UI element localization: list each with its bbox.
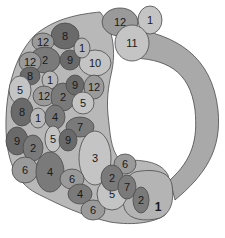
region-label: 10 — [89, 57, 101, 69]
region-label: 5 — [80, 97, 86, 109]
region-label: 5 — [17, 84, 23, 96]
region-label: 2 — [60, 91, 66, 103]
region-label: 6 — [122, 158, 128, 170]
region-label: 7 — [124, 181, 130, 193]
region-label: 6 — [22, 164, 28, 176]
big-region-label: 1 — [155, 200, 162, 214]
region-label: 8 — [62, 30, 68, 42]
region-label: 2 — [30, 142, 36, 154]
region-4: 4 — [45, 105, 65, 129]
region-6: 6 — [12, 157, 38, 183]
region-label: 8 — [19, 106, 25, 118]
region-5: 5 — [72, 92, 94, 114]
region-label: 4 — [52, 111, 58, 123]
region-label: 4 — [47, 166, 53, 178]
region-label: 11 — [126, 37, 137, 49]
region-label: 1 — [47, 74, 53, 86]
region-label: 12 — [38, 90, 50, 102]
region-label: 2 — [109, 172, 115, 184]
region-label: 9 — [72, 79, 78, 91]
region-1: 1 — [74, 38, 90, 58]
region-label: 5 — [50, 133, 56, 145]
region-label: 6 — [69, 173, 75, 185]
region-5: 5 — [45, 126, 61, 152]
region-label: 3 — [92, 152, 98, 164]
region-label: 1 — [147, 14, 153, 26]
region-label: 2 — [42, 54, 48, 66]
region-label: 9 — [65, 134, 71, 146]
region-1: 1 — [30, 108, 46, 128]
region-label: 7 — [77, 121, 83, 133]
region-label: 2 — [138, 194, 144, 206]
region-label: 9 — [67, 54, 73, 66]
region-label: 12 — [24, 56, 36, 68]
region-label: 1 — [79, 42, 85, 54]
region-9: 9 — [59, 129, 77, 151]
region-label: 1 — [35, 112, 41, 124]
region-11: 11 — [115, 25, 149, 61]
region-4: 4 — [36, 152, 64, 192]
d-shaped-domain-diagram: 1211110812291128151229125814792596436465… — [0, 0, 225, 238]
region-label: 12 — [88, 81, 100, 93]
region-label: 4 — [77, 188, 83, 200]
region-label: 6 — [90, 204, 96, 216]
region-8: 8 — [11, 98, 33, 126]
region-2: 2 — [133, 187, 149, 213]
region-label: 12 — [114, 16, 126, 28]
region-label: 9 — [14, 135, 20, 147]
region-label: 12 — [37, 36, 49, 48]
